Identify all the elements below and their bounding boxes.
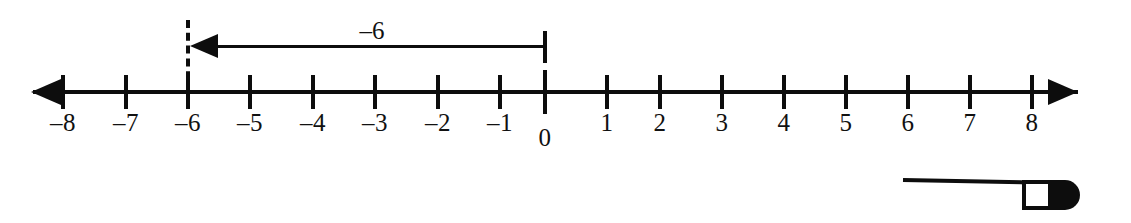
pointer-cap-icon (1048, 180, 1080, 210)
tick-mark--1 (498, 75, 502, 109)
tick-mark-8 (1030, 75, 1034, 109)
left-arrowhead-icon (31, 79, 61, 105)
tick-label--8: –8 (33, 110, 93, 135)
tick-label--7: –7 (96, 110, 156, 135)
tick-label--4: –4 (283, 110, 343, 135)
tick-label-5: 5 (816, 110, 876, 135)
tick-mark--3 (373, 75, 377, 109)
tick-label--2: –2 (408, 110, 468, 135)
jump-arrowhead-icon (190, 34, 218, 58)
tick-label--5: –5 (220, 110, 280, 135)
tick-mark--5 (248, 75, 252, 109)
tick-mark-7 (968, 75, 972, 109)
tick-mark--8 (61, 75, 65, 109)
tick-mark--2 (436, 75, 440, 109)
tick-label--6: –6 (158, 110, 218, 135)
jump-arrow-shaft (196, 45, 546, 48)
jump-arrow-label: –6 (342, 18, 402, 43)
tick-mark-5 (844, 75, 848, 109)
tick-mark-2 (658, 75, 662, 109)
tick-label-1: 1 (577, 110, 637, 135)
tick-label-0: 0 (515, 125, 575, 150)
number-line-figure: –8–7–6–5–4–3–2–1012345678 –6 (0, 0, 1131, 223)
tick-label-7: 7 (940, 110, 1000, 135)
tick-mark--4 (311, 75, 315, 109)
tick-label-8: 8 (1002, 110, 1062, 135)
tick-label-2: 2 (630, 110, 690, 135)
tick-mark-0 (543, 70, 547, 114)
tick-label-6: 6 (878, 110, 938, 135)
right-arrowhead-icon (1048, 79, 1078, 105)
tick-label-4: 4 (754, 110, 814, 135)
tick-mark-6 (906, 75, 910, 109)
tick-mark-4 (782, 75, 786, 109)
tick-label--3: –3 (345, 110, 405, 135)
tick-mark-3 (720, 75, 724, 109)
tick-label-3: 3 (692, 110, 752, 135)
tick-mark--7 (124, 75, 128, 109)
jump-arrow-endbar (543, 31, 547, 63)
tick-mark-1 (605, 75, 609, 109)
